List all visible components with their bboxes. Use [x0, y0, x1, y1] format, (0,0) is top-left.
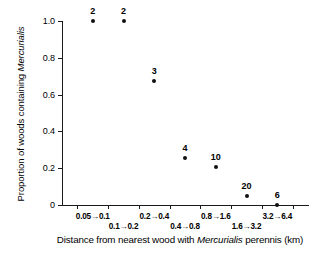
- x-axis-tick-mark: [200, 205, 201, 209]
- y-axis-tick-label: 0.8: [43, 53, 55, 62]
- x-axis-tick-label: 0.8→1.6: [201, 212, 231, 221]
- x-axis-tick-mark: [231, 205, 232, 209]
- x-axis-tick-label: 3.2→6.4: [262, 212, 292, 221]
- y-axis-tick-label: 1.0: [43, 17, 55, 26]
- x-axis-tick-mark: [262, 205, 263, 209]
- x-axis-tick-mark: [170, 205, 171, 209]
- data-point-label: 20: [241, 182, 251, 191]
- y-axis-tick-mark: [58, 95, 62, 96]
- x-axis-line: [62, 205, 309, 206]
- x-axis-tick-label: 1.6→3.2: [232, 222, 262, 231]
- scatter-plot-figure: 00.20.40.60.81.0 223410206 Proportion of…: [0, 0, 321, 255]
- y-axis-tick-mark: [58, 131, 62, 132]
- data-point: [152, 79, 156, 83]
- x-axis-tick-label: 0.2→0.4: [139, 212, 169, 221]
- x-axis-tick-mark: [108, 205, 109, 209]
- data-point: [214, 165, 218, 169]
- data-point: [183, 156, 187, 160]
- y-axis-tick-mark: [58, 58, 62, 59]
- x-axis-tick-mark: [77, 205, 78, 209]
- y-axis-tick-label: 0.2: [43, 164, 55, 173]
- data-point-label: 2: [121, 7, 126, 16]
- x-axis-tick-label: 0.05→0.1: [76, 212, 110, 221]
- y-axis-tick-label: 0.6: [43, 90, 55, 99]
- species-name: Mercurialis: [15, 27, 26, 72]
- x-axis-title: Distance from nearest wood with Mercuria…: [40, 234, 320, 246]
- data-point-label: 10: [211, 153, 221, 162]
- y-axis-tick-label: 0: [50, 201, 55, 210]
- data-point: [91, 19, 95, 23]
- plot-area: 00.20.40.60.81.0 223410206: [62, 21, 308, 205]
- y-axis-tick-label: 0.4: [43, 127, 55, 136]
- data-point: [275, 203, 279, 207]
- species-name: Mercurialis: [197, 234, 243, 245]
- x-axis-tick-mark: [293, 205, 294, 209]
- x-axis-tick-label: 0.4→0.8: [170, 222, 200, 231]
- data-point: [122, 19, 126, 23]
- y-axis-tick-mark: [58, 168, 62, 169]
- data-point-label: 6: [275, 191, 280, 200]
- data-point-label: 4: [182, 144, 187, 153]
- y-axis-tick-mark: [58, 205, 62, 206]
- x-axis-tick-mark: [139, 205, 140, 209]
- y-axis-title: Proportion of woods containing Mercurial…: [14, 22, 28, 206]
- x-axis-tick-label: 0.1→0.2: [109, 222, 139, 231]
- y-axis-tick-mark: [58, 21, 62, 22]
- data-point-label: 3: [152, 67, 157, 76]
- data-point-label: 2: [90, 7, 95, 16]
- data-point: [245, 194, 249, 198]
